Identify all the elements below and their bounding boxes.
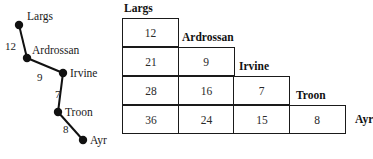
- node-label-ayr: Ayr: [90, 135, 107, 147]
- table-row: 12: [122, 18, 179, 47]
- matrix-cell-largs-irvine[interactable]: 21: [122, 47, 179, 76]
- matrix-cell-ardrossan-ayr[interactable]: 24: [178, 105, 235, 134]
- edge-weight-largs-ardrossan: 12: [5, 41, 16, 52]
- matrix-header-troon: Troon: [296, 90, 326, 102]
- edge-weight-irvine-troon: 7: [55, 89, 61, 100]
- node-largs[interactable]: [15, 21, 23, 29]
- matrix-cell-largs-ayr[interactable]: 36: [122, 105, 179, 134]
- node-label-troon: Troon: [65, 107, 93, 119]
- node-troon[interactable]: [54, 108, 62, 116]
- network-edges: [19, 25, 83, 140]
- staircase-distance-matrix: Largs Ardrossan Irvine Troon Ayr 12 21 9…: [122, 0, 373, 159]
- matrix-header-ayr: Ayr: [355, 114, 373, 126]
- node-irvine[interactable]: [59, 69, 67, 77]
- node-label-irvine: Irvine: [70, 68, 97, 80]
- matrix-cell-largs-troon[interactable]: 28: [122, 76, 179, 105]
- matrix-cell-troon-ayr[interactable]: 8: [289, 105, 346, 134]
- edge-weight-troon-ayr: 8: [63, 124, 69, 135]
- matrix-header-irvine: Irvine: [239, 61, 269, 73]
- matrix-cell-ardrossan-irvine[interactable]: 9: [178, 47, 235, 76]
- distance-matrix-figure: Largs Ardrossan Irvine Troon Ayr 12 9 7 …: [0, 0, 373, 159]
- edge-largs-ardrossan: [19, 25, 27, 58]
- node-ardrossan[interactable]: [23, 54, 31, 62]
- node-ayr[interactable]: [79, 136, 87, 144]
- table-row: 28 16 7: [122, 76, 290, 105]
- network-nodes: [15, 21, 87, 144]
- node-label-ardrossan: Ardrossan: [32, 45, 79, 57]
- table-row: 36 24 15 8: [122, 105, 346, 134]
- matrix-cell-largs-ardrossan[interactable]: 12: [122, 18, 179, 47]
- matrix-header-ardrossan: Ardrossan: [182, 32, 234, 44]
- matrix-cell-irvine-ayr[interactable]: 15: [233, 105, 290, 134]
- matrix-cell-irvine-troon[interactable]: 7: [233, 76, 290, 105]
- node-label-largs: Largs: [27, 11, 53, 23]
- matrix-cell-ardrossan-troon[interactable]: 16: [178, 76, 235, 105]
- matrix-header-largs: Largs: [124, 3, 153, 15]
- route-network-diagram: Largs Ardrossan Irvine Troon Ayr 12 9 7 …: [0, 0, 118, 159]
- edge-ardrossan-irvine: [27, 58, 63, 73]
- edge-weight-ardrossan-irvine: 9: [37, 72, 43, 83]
- table-row: 21 9: [122, 47, 235, 76]
